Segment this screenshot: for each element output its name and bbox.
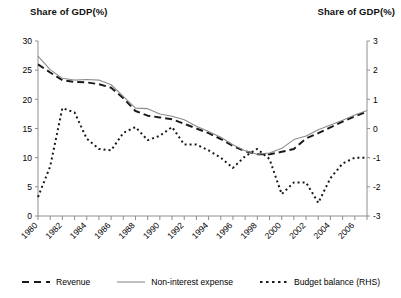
chart-container: Share of GDP(%) Share of GDP(%) 05101520… — [0, 0, 401, 298]
chart-plot-area: 051015202530 -3-2-10123 1980198219841986… — [0, 0, 401, 268]
x-axis — [38, 216, 367, 220]
svg-text:1994: 1994 — [190, 220, 211, 241]
svg-text:2000: 2000 — [263, 220, 284, 241]
svg-text:2: 2 — [373, 65, 378, 75]
svg-text:-3: -3 — [373, 211, 381, 221]
svg-text:-1: -1 — [373, 153, 381, 163]
legend-swatch-icon — [116, 277, 146, 287]
series-line — [38, 64, 367, 154]
svg-text:30: 30 — [23, 36, 33, 46]
legend-label: Non-interest expense — [151, 277, 233, 287]
legend-item[interactable]: Non-interest expense — [116, 277, 233, 287]
svg-text:1984: 1984 — [68, 220, 89, 241]
svg-text:15: 15 — [23, 124, 33, 134]
left-axis-title: Share of GDP(%) — [30, 6, 108, 17]
svg-text:0: 0 — [373, 124, 378, 134]
legend-item[interactable]: Revenue — [21, 277, 90, 287]
svg-text:1990: 1990 — [141, 220, 162, 241]
svg-text:2002: 2002 — [287, 220, 308, 241]
svg-text:1: 1 — [373, 95, 378, 105]
chart-legend: RevenueNon-interest expenseBudget balanc… — [0, 272, 401, 292]
legend-label: Revenue — [56, 277, 90, 287]
legend-item[interactable]: Budget balance (RHS) — [259, 277, 380, 287]
svg-text:2006: 2006 — [336, 220, 357, 241]
svg-text:1980: 1980 — [19, 220, 40, 241]
svg-text:3: 3 — [373, 36, 378, 46]
svg-text:10: 10 — [23, 153, 33, 163]
svg-text:1986: 1986 — [92, 220, 113, 241]
series-line — [38, 108, 367, 203]
svg-text:1992: 1992 — [165, 220, 186, 241]
data-series-group — [38, 56, 367, 203]
svg-text:20: 20 — [23, 95, 33, 105]
svg-text:1988: 1988 — [116, 220, 137, 241]
svg-text:-2: -2 — [373, 182, 381, 192]
svg-text:0: 0 — [27, 211, 32, 221]
left-axis: 051015202530 — [23, 36, 38, 221]
x-axis-tick-labels: 1980198219841986198819901992199419961998… — [19, 220, 356, 241]
right-axis: -3-2-10123 — [367, 36, 381, 221]
svg-text:1982: 1982 — [43, 220, 64, 241]
svg-text:1998: 1998 — [238, 220, 259, 241]
legend-swatch-icon — [259, 277, 289, 287]
svg-text:25: 25 — [23, 65, 33, 75]
svg-text:1996: 1996 — [214, 220, 235, 241]
legend-label: Budget balance (RHS) — [294, 277, 380, 287]
right-axis-title: Share of GDP(%) — [317, 6, 395, 17]
svg-text:2004: 2004 — [311, 220, 332, 241]
svg-text:5: 5 — [27, 182, 32, 192]
legend-swatch-icon — [21, 277, 51, 287]
